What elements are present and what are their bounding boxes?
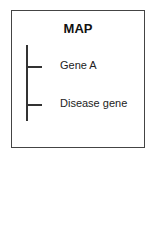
marker-tick-gene-a bbox=[27, 66, 42, 68]
chromosome-line bbox=[26, 45, 28, 121]
marker-label-disease-gene: Disease gene bbox=[60, 97, 127, 109]
marker-tick-disease-gene bbox=[27, 104, 42, 106]
map-title: MAP bbox=[11, 21, 145, 36]
marker-label-gene-a: Gene A bbox=[60, 59, 97, 71]
